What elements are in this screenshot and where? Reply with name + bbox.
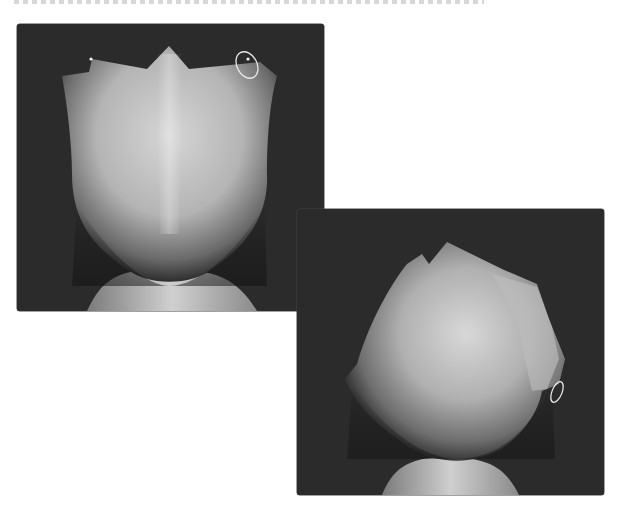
neck-mesh	[382, 457, 519, 495]
head-mesh-angled	[297, 209, 604, 495]
cropped-caption-text	[14, 0, 484, 6]
head-mesh-front	[17, 24, 324, 311]
caption-glyph-row	[14, 0, 484, 4]
viewport-angled[interactable]	[297, 209, 604, 495]
selected-vertex	[246, 57, 249, 60]
viewport-front[interactable]	[17, 24, 324, 311]
selected-vertex	[89, 57, 92, 60]
